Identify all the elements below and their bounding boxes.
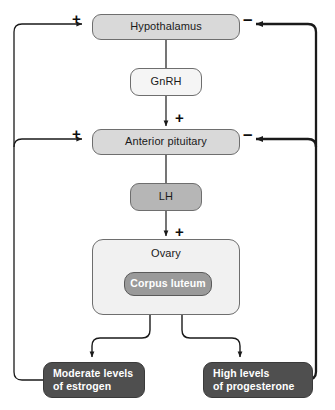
edge-progesterone-pituitary bbox=[256, 139, 316, 147]
edge-progesterone-trunk bbox=[256, 24, 316, 380]
node-hypothalamus[interactable]: Hypothalamus bbox=[92, 14, 240, 40]
plus-sign-gnrh-to-pituitary: + bbox=[175, 110, 184, 125]
minus-sign-hypothalamus: – bbox=[243, 11, 252, 28]
node-moderate-estrogen-line2: of estrogen bbox=[53, 380, 111, 392]
node-gnrh-label: GnRH bbox=[151, 75, 182, 89]
node-lh-label: LH bbox=[159, 190, 173, 204]
node-moderate-estrogen-line1: Moderate levels bbox=[53, 367, 133, 379]
node-lh[interactable]: LH bbox=[130, 183, 202, 211]
node-hypothalamus-label: Hypothalamus bbox=[130, 20, 202, 34]
plus-sign-lh-to-ovary: + bbox=[175, 224, 184, 239]
node-moderate-estrogen-label: Moderate levels of estrogen bbox=[53, 367, 133, 393]
edge-estrogen-trunk bbox=[14, 24, 82, 380]
edge-ovary-progesterone bbox=[182, 315, 240, 357]
minus-sign-pituitary: – bbox=[243, 126, 252, 143]
edge-ovary-estrogen bbox=[92, 315, 150, 357]
node-corpus-luteum-label: Corpus luteum bbox=[130, 277, 205, 290]
node-high-progesterone-line1: High levels bbox=[213, 367, 270, 379]
plus-sign-hypothalamus: + bbox=[72, 11, 81, 26]
node-corpus-luteum[interactable]: Corpus luteum bbox=[124, 272, 212, 296]
node-high-progesterone-label: High levels of progesterone bbox=[213, 367, 294, 393]
node-moderate-estrogen[interactable]: Moderate levels of estrogen bbox=[43, 362, 145, 398]
feedback-diagram: Hypothalamus GnRH Anterior pituitary LH … bbox=[0, 0, 335, 410]
plus-sign-pituitary: + bbox=[72, 126, 81, 141]
node-anterior-pituitary[interactable]: Anterior pituitary bbox=[92, 129, 240, 155]
node-gnrh[interactable]: GnRH bbox=[130, 68, 202, 96]
node-high-progesterone[interactable]: High levels of progesterone bbox=[203, 362, 313, 398]
node-anterior-pituitary-label: Anterior pituitary bbox=[125, 135, 207, 149]
node-ovary-label: Ovary bbox=[151, 247, 181, 261]
node-high-progesterone-line2: of progesterone bbox=[213, 380, 294, 392]
